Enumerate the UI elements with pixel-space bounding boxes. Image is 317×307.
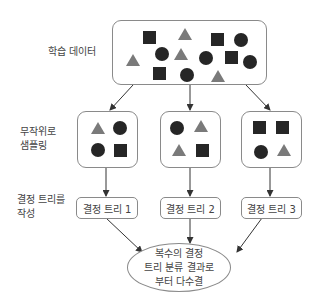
circle-shape [254, 145, 268, 159]
random-forest-diagram: 학습 데이터 무작위로 샘플링 결정 트리를 작성 결정 트리 1 결정 트리 … [0, 0, 317, 307]
square-shape [225, 51, 238, 64]
triangle-shape [126, 54, 140, 66]
decision-tree-2-box: 결정 트리 2 [160, 197, 221, 219]
arrow-tree-3-to-result [237, 218, 262, 252]
square-shape [114, 144, 127, 157]
square-shape [153, 67, 166, 80]
triangle-shape [211, 70, 225, 82]
arrow-tree-1-to-result [106, 218, 142, 252]
decision-tree-3-box: 결정 트리 3 [241, 197, 302, 219]
label-build-trees: 결정 트리를 작성 [17, 193, 65, 221]
circle-shape [91, 143, 105, 157]
sample-box-3 [241, 111, 302, 168]
decision-tree-1-box: 결정 트리 1 [76, 197, 138, 219]
triangle-shape [194, 120, 208, 132]
square-shape [211, 33, 224, 46]
square-shape [196, 144, 209, 157]
circle-shape [170, 121, 184, 135]
circle-shape [199, 51, 213, 65]
square-shape [276, 121, 289, 134]
label-training-data: 학습 데이터 [48, 45, 96, 59]
arrow-data-to-sample-3 [246, 85, 270, 110]
circle-shape [234, 33, 248, 47]
sample-box-1 [77, 111, 138, 168]
label-random-sampling: 무작위로 샘플링 [20, 125, 56, 153]
circle-shape [180, 68, 194, 82]
circle-shape [155, 47, 169, 61]
square-shape [143, 31, 156, 44]
circle-shape [113, 121, 127, 135]
square-shape [253, 121, 266, 134]
triangle-shape [174, 48, 188, 60]
sample-box-2 [160, 111, 221, 168]
arrow-data-to-sample-1 [110, 85, 133, 110]
majority-vote-ellipse: 복수의 결정 트리 분류 결과로 부터 다수결 [127, 243, 231, 292]
triangle-shape [178, 28, 192, 40]
triangle-shape [172, 144, 186, 156]
circle-shape [243, 55, 257, 69]
triangle-shape [277, 144, 291, 156]
triangle-shape [91, 122, 105, 134]
